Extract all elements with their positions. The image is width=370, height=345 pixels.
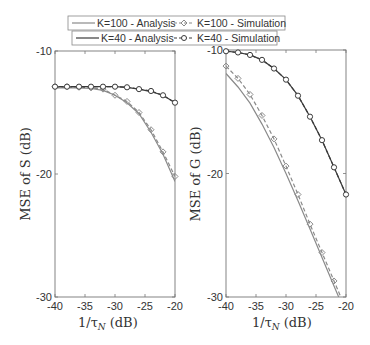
series-line [226,74,346,315]
circle-marker-icon [52,84,57,89]
right-x-axis-label: 1/τN(dB) [252,315,312,332]
y-tick-label: -30 [36,291,52,303]
left-plot-panel: -40-35-30-25-20-10-20-30 [36,45,183,312]
circle-marker-icon [160,93,165,98]
circle-marker-icon [319,138,324,143]
circle-marker-icon [343,192,348,197]
y-tick-label: -10 [36,45,52,57]
x-tick-label: -25 [137,300,153,312]
y-tick-label: -30 [207,291,223,303]
circle-marker-icon [271,66,276,71]
circle-marker-icon [259,57,264,62]
x-tick-label: -35 [248,300,264,312]
x-tick-label: -30 [107,300,123,312]
legend-label-k40-simulation: K=40 - Simulation [197,32,280,44]
right-plot-panel: -40-35-30-25-20-10-20-30 [207,44,354,314]
x-tick-label: -35 [77,300,93,312]
circle-marker-icon [307,114,312,119]
y-tick-label: -20 [36,168,52,180]
y-tick-label: -20 [207,168,223,180]
circle-marker-icon [136,87,141,92]
circle-marker-icon [182,36,187,41]
series-line [55,88,175,181]
circle-marker-icon [295,93,300,98]
x-tick-label: -20 [338,300,354,312]
left-y-axis-label: MSE of S (dB) [18,127,33,221]
x-tick-label: -30 [278,300,294,312]
y-tick-label: -10 [207,44,223,56]
circle-marker-icon [112,84,117,89]
series-line [55,87,175,177]
legend-label-k100-analysis: K=100 - Analysis [97,17,176,29]
circle-marker-icon [235,50,240,55]
right-y-axis-label: MSE of G (dB) [188,126,203,221]
chart-figure: K=100 - Analysis K=100 - Simulation K=40… [0,0,370,345]
legend-label-k100-simulation: K=100 - Simulation [197,17,286,29]
circle-marker-icon [124,85,129,90]
x-tick-label: -25 [308,300,324,312]
circle-marker-icon [100,84,105,89]
legend-label-k40-analysis: K=40 - Analysis [101,32,174,44]
circle-marker-icon [247,52,252,57]
circle-marker-icon [331,165,336,170]
legend: K=100 - Analysis K=100 - Simulation K=40… [68,16,286,45]
circle-marker-icon [88,84,93,89]
circle-marker-icon [283,77,288,82]
left-x-axis-label: 1/τN(dB) [78,315,138,332]
circle-marker-icon [223,49,228,54]
circle-marker-icon [172,100,177,105]
circle-marker-icon [76,84,81,89]
circle-marker-icon [64,84,69,89]
x-tick-label: -20 [167,300,183,312]
circle-marker-icon [148,88,153,93]
